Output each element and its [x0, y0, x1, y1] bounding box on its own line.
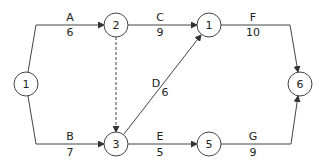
node-label-6: 6: [297, 79, 304, 90]
arrow-G: [221, 96, 298, 144]
activity-name-E: E: [157, 131, 164, 142]
activity-duration-G: 9: [250, 147, 257, 158]
node-label-2: 2: [113, 20, 120, 31]
node-label-3: 3: [113, 139, 120, 150]
activity-name-C: C: [156, 12, 164, 23]
activity-duration-D: 6: [162, 87, 169, 98]
activity-name-D: D: [152, 78, 160, 89]
arrow-D: [124, 35, 201, 134]
activity-name-B: B: [66, 131, 74, 142]
activity-duration-E: 5: [157, 147, 164, 158]
activity-duration-B: 7: [67, 147, 74, 158]
activity-name-A: A: [66, 12, 74, 23]
node-label-5: 5: [206, 139, 213, 150]
node-label-start: 1: [23, 79, 30, 90]
node-label-1-top: 1: [206, 20, 213, 31]
activity-name-G: G: [249, 131, 258, 142]
network-diagram: [0, 0, 327, 168]
activity-duration-C: 9: [157, 27, 164, 38]
activity-name-F: F: [250, 12, 256, 23]
activity-duration-F: 10: [246, 27, 260, 38]
activity-duration-A: 6: [67, 27, 74, 38]
